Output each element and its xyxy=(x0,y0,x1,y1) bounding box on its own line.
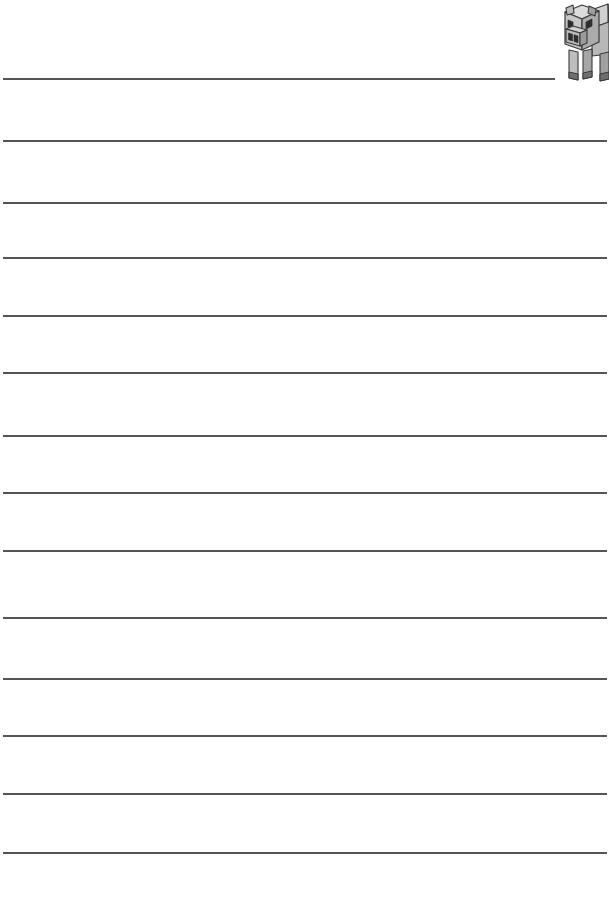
pig-illustration xyxy=(556,0,609,86)
ruled-line-7 xyxy=(3,435,607,437)
ruled-line-4 xyxy=(3,257,607,259)
pig-nostril-right xyxy=(574,35,578,43)
ruled-line-5 xyxy=(3,315,607,317)
pig-snout-side xyxy=(580,30,587,46)
ruled-line-6 xyxy=(3,372,607,374)
pig-ear-left xyxy=(566,5,574,15)
pig-hind-leg-right-hoof xyxy=(600,72,609,81)
ruled-line-11 xyxy=(3,678,607,680)
ruled-line-2 xyxy=(3,140,607,142)
worksheet-page xyxy=(0,0,609,906)
ruled-line-12 xyxy=(3,735,607,737)
pig-icon xyxy=(556,0,609,86)
ruled-line-3 xyxy=(3,202,607,204)
ruled-line-10 xyxy=(3,617,607,619)
ruled-line-1 xyxy=(3,78,555,80)
ruled-line-13 xyxy=(3,793,607,795)
pig-front-leg-left-hoof xyxy=(569,72,578,80)
ruled-line-14 xyxy=(3,852,607,854)
ruled-line-8 xyxy=(3,492,607,494)
ruled-line-9 xyxy=(3,550,607,552)
pig-front-leg-right-hoof xyxy=(583,71,592,79)
pig-nostril-left xyxy=(569,33,573,41)
